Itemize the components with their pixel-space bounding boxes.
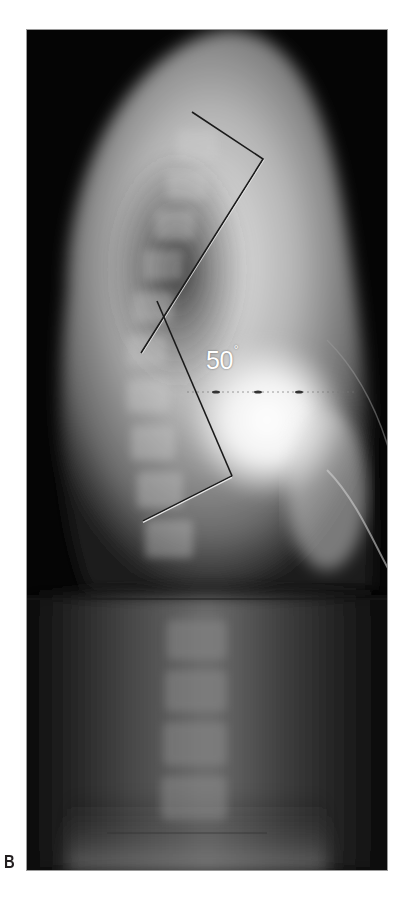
panel-label: B [4,851,15,873]
anterior-soft-tissue [287,410,367,570]
angle-value: 50 [206,346,233,374]
xray-image: 50° [26,29,388,871]
xray-rendering [27,30,388,871]
cobb-angle-label: 50° [206,346,238,375]
degree-symbol: ° [234,343,238,357]
